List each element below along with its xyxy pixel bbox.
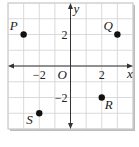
y-axis-label: y [72,1,80,16]
point-p [20,31,26,37]
y-tick-label: −2 [55,91,68,105]
point-s [36,110,42,116]
point-q [114,31,120,37]
x-tick-label: 2 [99,68,105,82]
point-label-p: P [9,18,18,33]
point-label-r: R [104,97,113,112]
coordinate-plane: xyO−222−2 PQRS [0,0,139,147]
y-tick-label: 2 [62,28,68,42]
point-label-s: S [26,112,33,127]
x-tick-label: −2 [33,68,46,82]
origin-label: O [58,67,68,82]
point-label-q: Q [103,18,113,33]
x-axis-label: x [126,66,133,81]
